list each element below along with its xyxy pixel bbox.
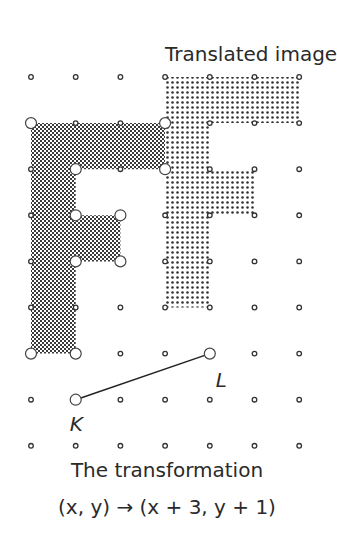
grid-dot xyxy=(29,213,34,218)
grid-dot xyxy=(163,75,168,80)
vertex-marker xyxy=(26,348,37,359)
grid-dot xyxy=(297,213,302,218)
grid-dot xyxy=(73,305,78,310)
grid-dot xyxy=(73,444,78,449)
grid-dot xyxy=(252,397,257,402)
grid-dot xyxy=(118,397,123,402)
grid-dot xyxy=(118,444,123,449)
point-k xyxy=(70,394,81,405)
point-l-label: L xyxy=(216,368,227,392)
grid-dot xyxy=(118,305,123,310)
translated-image-label: Translated image xyxy=(165,42,337,66)
grid-dot xyxy=(163,305,168,310)
grid-dot xyxy=(208,121,213,126)
grid-dot xyxy=(29,444,34,449)
vertex-marker xyxy=(115,210,126,221)
grid-dot xyxy=(29,259,34,264)
grid-dot xyxy=(29,167,34,172)
grid-dot xyxy=(297,397,302,402)
grid-dot xyxy=(252,213,257,218)
grid-dot xyxy=(208,444,213,449)
grid-dot xyxy=(73,75,78,80)
grid-dot xyxy=(297,259,302,264)
segment-kl xyxy=(76,354,210,400)
grid-dot xyxy=(118,121,123,126)
grid-dot xyxy=(252,305,257,310)
grid-dot xyxy=(208,167,213,172)
vertex-marker xyxy=(70,210,81,221)
grid-dot xyxy=(208,75,213,80)
grid-dot xyxy=(252,167,257,172)
grid-dot xyxy=(118,351,123,356)
grid-dot xyxy=(29,75,34,80)
grid-dot xyxy=(252,259,257,264)
grid-dot xyxy=(252,121,257,126)
vertex-marker xyxy=(70,348,81,359)
grid-dot xyxy=(208,213,213,218)
translated-f-shape xyxy=(165,77,299,308)
grid-dot xyxy=(297,351,302,356)
grid-dot xyxy=(163,397,168,402)
caption-line-2: (x, y) → (x + 3, y + 1) xyxy=(0,495,334,519)
vertex-marker xyxy=(160,164,171,175)
grid-dot xyxy=(297,75,302,80)
grid-dot xyxy=(163,213,168,218)
grid-dot xyxy=(163,259,168,264)
grid-dot xyxy=(29,397,34,402)
vertex-marker xyxy=(70,256,81,267)
vertex-marker xyxy=(26,118,37,129)
grid-dot xyxy=(163,444,168,449)
grid-dot xyxy=(118,75,123,80)
grid-dot xyxy=(29,305,34,310)
grid-dot xyxy=(252,351,257,356)
grid-dot xyxy=(252,444,257,449)
vertex-marker xyxy=(160,118,171,129)
grid-dot xyxy=(208,259,213,264)
point-k-label: K xyxy=(70,412,83,436)
vertex-marker xyxy=(115,256,126,267)
original-f-shape xyxy=(31,123,165,354)
grid-dot xyxy=(252,75,257,80)
grid-dot xyxy=(297,305,302,310)
grid-dot xyxy=(297,444,302,449)
grid-dot xyxy=(297,121,302,126)
grid-dot xyxy=(208,305,213,310)
grid-dot xyxy=(208,397,213,402)
vertex-marker xyxy=(70,164,81,175)
grid-dot xyxy=(297,167,302,172)
grid-dot xyxy=(118,167,123,172)
point-l xyxy=(204,348,215,359)
caption-line-1: The transformation xyxy=(0,458,334,482)
grid-dot xyxy=(73,121,78,126)
grid-dot xyxy=(163,351,168,356)
